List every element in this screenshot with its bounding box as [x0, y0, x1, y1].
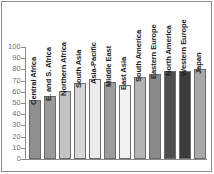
bar-chart-figure: 0102030405060708090100 Central AfricaE. …	[0, 0, 214, 174]
category-label: East Asia	[120, 57, 128, 90]
category-label: Eastern Europe	[150, 24, 158, 79]
plot-area: 0102030405060708090100 Central AfricaE. …	[0, 0, 214, 174]
category-label: North America	[165, 25, 173, 76]
y-tick-label: 70	[1, 77, 21, 85]
y-tick-mark	[21, 148, 26, 149]
y-tick-label-wrap: 0	[0, 155, 21, 163]
category-label: Japan	[195, 53, 203, 74]
category-label: Middle East	[105, 46, 113, 87]
y-tick-label: 90	[1, 54, 21, 62]
y-tick-label-wrap: 100	[0, 43, 21, 51]
y-tick-label-wrap: 80	[0, 65, 21, 73]
y-tick-label: 80	[1, 65, 21, 73]
y-tick-mark	[21, 103, 26, 104]
bar[interactable]	[149, 74, 161, 159]
y-tick-label: 30	[1, 121, 21, 129]
bar[interactable]	[104, 82, 116, 159]
bar[interactable]	[119, 85, 131, 159]
bar[interactable]	[164, 71, 176, 159]
y-tick-label: 60	[1, 88, 21, 96]
y-tick-label-wrap: 30	[0, 121, 21, 129]
y-tick-mark	[21, 58, 26, 59]
bar[interactable]	[134, 77, 146, 159]
y-tick-mark	[21, 92, 26, 93]
y-tick-mark	[21, 137, 26, 138]
bar[interactable]	[179, 71, 191, 159]
y-tick-label: 100	[1, 43, 21, 51]
bar[interactable]	[59, 91, 71, 159]
y-tick-label: 20	[1, 133, 21, 141]
y-tick-label: 40	[1, 110, 21, 118]
y-tick-label: 50	[1, 99, 21, 107]
y-tick-mark	[21, 81, 26, 82]
x-axis-baseline	[25, 159, 207, 160]
y-tick-label-wrap: 40	[0, 110, 21, 118]
y-tick-mark	[21, 69, 26, 70]
y-tick-label-wrap: 50	[0, 99, 21, 107]
y-tick-label: 10	[1, 144, 21, 152]
y-tick-mark	[21, 114, 26, 115]
bar[interactable]	[89, 79, 101, 159]
category-label: E. and S. Africa	[45, 47, 53, 101]
y-tick-label-wrap: 60	[0, 88, 21, 96]
bar[interactable]	[194, 69, 206, 159]
y-tick-label-wrap: 90	[0, 54, 21, 62]
y-tick-mark	[21, 125, 26, 126]
y-tick-label: 0	[1, 155, 21, 163]
category-label: Central Africa	[30, 57, 38, 105]
y-tick-label-wrap: 20	[0, 133, 21, 141]
bar[interactable]	[29, 100, 41, 159]
y-tick-label-wrap: 10	[0, 144, 21, 152]
category-label: South Asia	[75, 49, 83, 87]
y-tick-mark	[21, 159, 26, 160]
y-tick-label-wrap: 70	[0, 77, 21, 85]
bar[interactable]	[74, 83, 86, 159]
category-label: Northern Africa	[60, 42, 68, 96]
category-label: Asia-Pacific	[90, 43, 98, 85]
category-label: Western Europe	[180, 19, 188, 76]
bar[interactable]	[44, 96, 56, 159]
category-label: South America	[135, 30, 143, 82]
y-tick-mark	[21, 47, 26, 48]
